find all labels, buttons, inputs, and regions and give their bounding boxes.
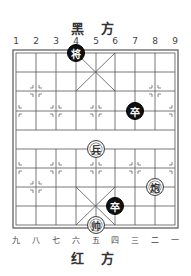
piece-red-soldier[interactable]: 兵 (87, 140, 105, 158)
file-label: 四 (108, 234, 122, 245)
piece-char: 帅 (91, 218, 101, 233)
file-label: 九 (9, 234, 23, 245)
piece-black-general[interactable]: 将 (67, 44, 85, 62)
piece-char: 将 (71, 46, 81, 61)
piece-red-cannon[interactable]: 炮 (146, 178, 164, 196)
piece-char: 炮 (150, 180, 160, 195)
piece-char: 卒 (130, 104, 140, 119)
file-label: 七 (49, 234, 63, 245)
piece-black-soldier[interactable]: 卒 (126, 102, 144, 120)
piece-char: 兵 (91, 142, 101, 157)
file-label: 八 (29, 234, 43, 245)
file-label: 六 (69, 234, 83, 245)
bottom-file-labels: 九 八 七 六 五 四 三 二 一 (0, 234, 191, 246)
position-markers (19, 85, 172, 193)
file-label: 二 (148, 234, 162, 245)
piece-char: 卒 (110, 199, 120, 214)
piece-red-general[interactable]: 帅 (87, 216, 105, 234)
file-label: 五 (89, 234, 103, 245)
piece-black-soldier[interactable]: 卒 (106, 197, 124, 215)
file-label: 一 (168, 234, 182, 245)
file-label: 三 (128, 234, 142, 245)
bottom-side-label: 红 方 (0, 248, 191, 267)
